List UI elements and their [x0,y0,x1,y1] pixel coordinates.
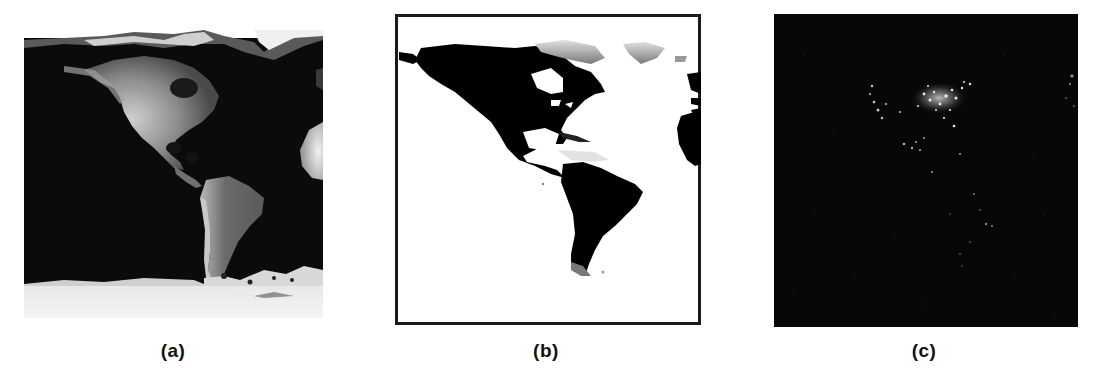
map-panel-c [774,14,1078,327]
land-mask-map-image [395,14,701,325]
caption-b: (b) [506,340,586,362]
map-panel-a [24,30,323,318]
night-lights-map-image [774,14,1078,327]
reflectance-map-image [24,30,323,318]
caption-c: (c) [884,340,964,362]
map-panel-b [395,14,701,325]
caption-a: (a) [133,340,213,362]
